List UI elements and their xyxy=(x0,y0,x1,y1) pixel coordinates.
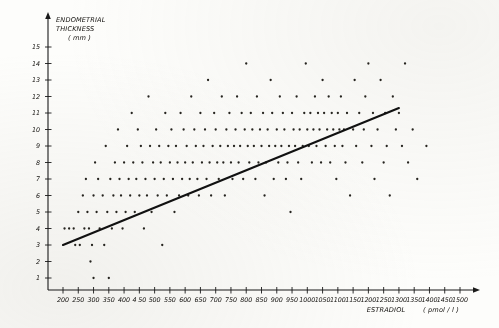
data-point xyxy=(257,161,259,163)
data-point xyxy=(230,161,232,163)
x-tick-label: 1100 xyxy=(330,296,346,304)
x-tick-label: 900 xyxy=(271,296,283,304)
y-tick-label: 1 xyxy=(36,274,40,282)
x-tick-label: 950 xyxy=(286,296,298,304)
data-point xyxy=(91,244,93,246)
x-tick-label: 400 xyxy=(118,296,130,304)
data-point xyxy=(332,128,334,130)
x-tick-label: 1500 xyxy=(452,296,468,304)
data-point xyxy=(266,128,268,130)
data-point xyxy=(155,128,157,130)
data-point xyxy=(306,128,308,130)
y-tick-label: 14 xyxy=(32,60,40,68)
x-tick-label: 550 xyxy=(164,296,176,304)
data-point xyxy=(242,178,244,180)
data-point xyxy=(179,112,181,114)
data-point xyxy=(85,178,87,180)
x-tick-label: 1250 xyxy=(376,296,392,304)
data-point xyxy=(164,112,166,114)
data-point xyxy=(138,194,140,196)
data-point xyxy=(131,112,133,114)
data-point xyxy=(367,62,369,64)
data-point xyxy=(358,112,360,114)
data-point xyxy=(92,194,94,196)
data-point xyxy=(88,227,90,229)
y-tick-label: 6 xyxy=(36,192,40,200)
data-point xyxy=(186,145,188,147)
data-point xyxy=(236,95,238,97)
data-point xyxy=(135,178,137,180)
scatter-plot-canvas: 123456789101112131415 2002503003504004 5… xyxy=(0,0,499,328)
x-tick-label: 250 xyxy=(72,296,84,304)
data-point xyxy=(176,161,178,163)
data-point xyxy=(425,145,427,147)
data-point xyxy=(237,161,239,163)
data-point xyxy=(315,145,317,147)
data-point xyxy=(320,161,322,163)
data-point xyxy=(270,79,272,81)
data-point xyxy=(224,194,226,196)
data-point xyxy=(106,211,108,213)
data-point xyxy=(268,145,270,147)
data-point xyxy=(221,95,223,97)
data-point xyxy=(292,128,294,130)
data-point xyxy=(344,161,346,163)
data-point xyxy=(95,211,97,213)
data-point xyxy=(379,79,381,81)
x-tick-label: 1450 xyxy=(437,296,453,304)
data-point xyxy=(398,112,400,114)
data-point xyxy=(228,112,230,114)
data-point xyxy=(128,178,130,180)
y-tick-label: 8 xyxy=(36,159,40,167)
data-point xyxy=(202,145,204,147)
data-point xyxy=(337,112,339,114)
data-point xyxy=(383,161,385,163)
data-point xyxy=(126,145,128,147)
data-point xyxy=(150,211,152,213)
data-point xyxy=(82,194,84,196)
data-point xyxy=(280,145,282,147)
data-point xyxy=(395,128,397,130)
data-point xyxy=(83,227,85,229)
data-point xyxy=(167,145,169,147)
data-point xyxy=(172,178,174,180)
data-point xyxy=(86,211,88,213)
data-point xyxy=(291,112,293,114)
data-point xyxy=(389,194,391,196)
x-tick-label: 650 xyxy=(194,296,206,304)
data-point xyxy=(219,145,221,147)
data-point xyxy=(157,194,159,196)
y-tick-label: 13 xyxy=(32,76,40,84)
data-point xyxy=(225,128,227,130)
x-tick-label: 1350 xyxy=(406,296,422,304)
x-tick-label: 1300 xyxy=(391,296,407,304)
y-axis-label-line2: THICKNESS xyxy=(56,25,94,33)
data-point xyxy=(373,178,375,180)
data-point xyxy=(392,95,394,97)
data-point xyxy=(233,145,235,147)
data-point xyxy=(152,161,154,163)
data-point xyxy=(115,211,117,213)
data-point xyxy=(416,178,418,180)
x-axis-unit: ( pmol / l ) xyxy=(423,306,459,314)
data-point xyxy=(401,145,403,147)
data-point xyxy=(208,161,210,163)
data-point xyxy=(211,145,213,147)
data-point xyxy=(286,161,288,163)
data-point xyxy=(199,112,201,114)
data-point xyxy=(376,128,378,130)
data-point xyxy=(295,95,297,97)
data-point xyxy=(79,244,81,246)
data-point xyxy=(346,112,348,114)
data-point xyxy=(340,95,342,97)
data-point xyxy=(213,112,215,114)
data-point xyxy=(74,244,76,246)
data-point xyxy=(132,161,134,163)
data-point xyxy=(331,112,333,114)
data-point xyxy=(273,178,275,180)
data-point xyxy=(334,145,336,147)
data-point xyxy=(147,95,149,97)
data-point xyxy=(193,128,195,130)
data-point xyxy=(227,145,229,147)
data-point xyxy=(68,227,70,229)
